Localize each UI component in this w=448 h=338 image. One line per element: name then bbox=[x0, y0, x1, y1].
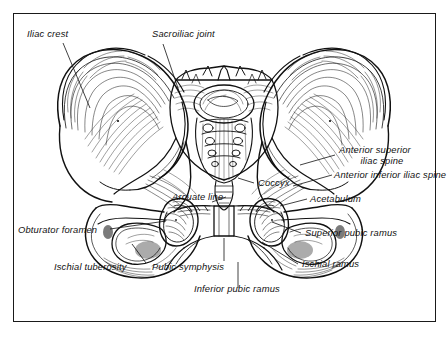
label-sacroiliac-joint: Sacroiliac joint bbox=[152, 28, 215, 39]
label-obturator-foramen: Obturator foramen bbox=[18, 224, 97, 235]
label-superior-pubic-ramus: Superior pubic ramus bbox=[305, 227, 397, 238]
label-anterior-inferior-iliac-spine: Anterior inferior iliac spine bbox=[334, 169, 446, 180]
label-arcuate-line: Arcuate line bbox=[172, 191, 223, 202]
label-coccyx: Coccyx bbox=[258, 177, 290, 188]
leader-ischial-tuberosity bbox=[132, 244, 146, 263]
label-anterior-superior-iliac-spine-line2: iliac spine bbox=[339, 155, 425, 166]
leader-iliac-crest bbox=[63, 43, 90, 108]
label-ischial-tuberosity: Ischial tuberosity bbox=[54, 261, 127, 272]
label-iliac-crest: Iliac crest bbox=[27, 28, 68, 39]
leader-superior-pubic-ramus bbox=[272, 222, 301, 233]
leader-anterior-superior-iliac-spine bbox=[300, 155, 335, 165]
figure-canvas: Iliac crest Sacroiliac joint Anterior su… bbox=[0, 0, 448, 338]
leader-sacroiliac-joint bbox=[163, 44, 182, 100]
leader-ischial-ramus bbox=[262, 242, 298, 264]
leader-obturator-foramen bbox=[110, 221, 166, 229]
label-inferior-pubic-ramus: Inferior pubic ramus bbox=[194, 283, 280, 294]
leader-anterior-inferior-iliac-spine bbox=[293, 175, 332, 186]
label-pubic-symphysis: Pubic symphysis bbox=[152, 261, 224, 272]
leader-coccyx bbox=[238, 178, 254, 183]
leader-acetabulum bbox=[280, 199, 307, 206]
label-ischial-ramus: Ischial ramus bbox=[302, 258, 359, 269]
label-anterior-superior-iliac-spine-line1: Anterior superior bbox=[339, 144, 411, 155]
label-acetabulum: Acetabulum bbox=[310, 193, 361, 204]
